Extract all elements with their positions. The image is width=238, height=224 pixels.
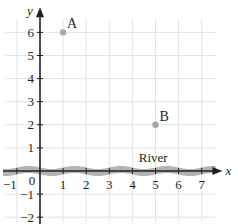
x-tick-label: 7	[198, 177, 205, 192]
point-label-b: B	[160, 109, 169, 124]
x-tick-label: 2	[83, 177, 90, 192]
y-tick-label: 4	[28, 71, 35, 86]
coordinate-plane: xy −11234567−2−11234560 AB River	[0, 0, 238, 224]
y-tick-label: −2	[20, 210, 34, 224]
x-tick-label: 1	[60, 177, 67, 192]
x-axis-label: x	[224, 163, 231, 178]
x-tick-label: −1	[3, 177, 17, 192]
x-tick-label: 5	[152, 177, 159, 192]
x-tick-label: 3	[106, 177, 113, 192]
y-tick-label: 1	[28, 140, 35, 155]
y-axis-arrow-icon	[36, 7, 44, 17]
y-tick-label: 2	[28, 117, 35, 132]
y-axis-label: y	[25, 3, 33, 18]
river-label: River	[139, 150, 169, 165]
y-tick-label: 6	[28, 25, 35, 40]
y-tick-label: −1	[20, 187, 34, 202]
axes: xy	[3, 3, 231, 224]
annotations: River	[139, 150, 169, 165]
y-tick-label: 3	[28, 94, 35, 109]
origin-label: 0	[29, 173, 36, 188]
point-a	[60, 29, 66, 35]
x-tick-label: 6	[175, 177, 182, 192]
y-tick-label: 5	[28, 48, 35, 63]
data-points: AB	[60, 16, 169, 128]
point-label-a: A	[67, 16, 78, 31]
x-tick-label: 4	[129, 177, 136, 192]
x-axis-arrow-icon	[212, 167, 222, 175]
point-b	[152, 122, 158, 128]
